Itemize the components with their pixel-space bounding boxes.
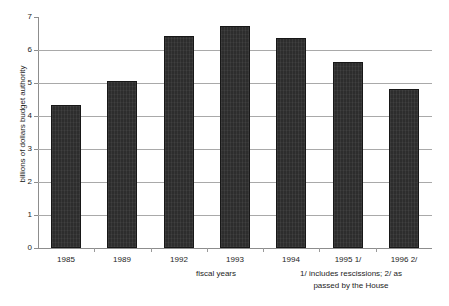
y-tick-mark [34,149,38,150]
y-tick-mark [34,50,38,51]
y-axis-tick: 2 [38,182,39,183]
y-tick-mark [34,215,38,216]
bar-chart: billions of dollars budget authority 012… [0,0,449,306]
bar[interactable] [164,36,194,248]
x-tick-label: 1996 2/ [364,254,444,265]
y-tick-label: 1 [28,209,32,220]
y-axis-tick: 5 [38,83,39,84]
x-tick-mark [94,248,95,252]
y-axis-tick: 0 [38,248,39,249]
footnote-line-2: passed by the House [262,280,440,292]
y-axis-tick: 6 [38,50,39,51]
x-tick-mark [376,248,377,252]
y-axis-tick: 3 [38,149,39,150]
bar[interactable] [220,26,250,248]
bar[interactable] [107,81,137,248]
y-tick-mark [34,17,38,18]
y-tick-label: 7 [28,11,32,22]
y-tick-label: 3 [28,143,32,154]
footnote-line-1: 1/ includes rescissions; 2/ as [262,268,440,280]
chart-footnote: 1/ includes rescissions; 2/ aspassed by … [262,268,440,292]
x-tick-mark [207,248,208,252]
y-tick-mark [34,116,38,117]
y-tick-label: 0 [28,242,32,253]
x-tick-mark [319,248,320,252]
x-tick-mark [263,248,264,252]
y-tick-label: 4 [28,110,32,121]
bar[interactable] [389,89,419,248]
y-tick-label: 6 [28,44,32,55]
y-tick-label: 2 [28,176,32,187]
y-axis-tick: 4 [38,116,39,117]
x-axis-title: fiscal years [168,268,264,279]
bar[interactable] [51,105,81,248]
plot-area: 01234567 [38,17,432,248]
y-tick-mark [34,83,38,84]
y-axis-tick: 7 [38,17,39,18]
y-tick-label: 5 [28,77,32,88]
x-axis-line [38,248,432,249]
x-tick-mark [151,248,152,252]
y-tick-mark [34,182,38,183]
bar[interactable] [276,38,306,248]
y-tick-mark [34,248,38,249]
bar[interactable] [333,62,363,248]
y-axis-tick: 1 [38,215,39,216]
